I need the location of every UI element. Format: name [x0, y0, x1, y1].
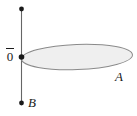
ellipse-a [21, 42, 133, 71]
label-point-b: B [28, 96, 36, 109]
label-ellipse-a: A [115, 70, 123, 83]
figure-canvas: 0 A B [0, 0, 137, 116]
label-origin: 0 [6, 48, 14, 63]
bottom-endpoint-dot [19, 101, 24, 106]
top-endpoint-dot [19, 7, 24, 12]
origin-glyph: 0 [6, 50, 14, 63]
diagram-svg [0, 0, 137, 116]
origin-point-dot [19, 54, 25, 60]
